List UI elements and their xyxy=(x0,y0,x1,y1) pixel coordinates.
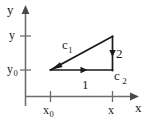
vertical-label-subscript: 2 xyxy=(120,76,127,86)
vertical-label-c2: c2 xyxy=(114,69,127,86)
hypotenuse-label-base: c xyxy=(62,37,68,52)
y-tick-label-y: y xyxy=(9,29,15,41)
x-tick-label-x-base: x xyxy=(108,103,114,117)
vertical-index-label-2: 2 xyxy=(116,47,123,60)
vertical-label-base: c xyxy=(114,68,120,83)
horizontal-index-label-1: 1 xyxy=(82,78,89,91)
x-axis-group xyxy=(26,91,140,102)
x-axis-label: x xyxy=(135,101,142,114)
x-tick-label-x0-subscript: 0 xyxy=(49,109,54,119)
hypotenuse-label-subscript: 1 xyxy=(68,45,73,55)
y-tick-label-y0-subscript: 0 xyxy=(13,68,18,78)
hypotenuse-label-c1: c1 xyxy=(62,38,73,54)
y-axis-label: y xyxy=(7,3,14,16)
y-axis-group xyxy=(20,5,31,106)
figure-canvas xyxy=(0,0,147,122)
x-tick-label-x0: x0 xyxy=(43,104,54,119)
hypotenuse-arrowhead xyxy=(51,62,63,70)
x-tick-label-x: x xyxy=(108,104,114,116)
y-tick-label-y-base: y xyxy=(9,28,15,42)
vertical-vector-c2 xyxy=(109,37,115,71)
y-axis-arrowhead xyxy=(22,5,30,14)
y-tick-label-y0: y0 xyxy=(7,63,18,78)
hypotenuse-vector-c1 xyxy=(51,37,113,71)
horizontal-midpoint-arrowhead xyxy=(81,67,88,73)
vector-triangle-figure: y x y y0 x0 x c1 2 c2 1 xyxy=(0,0,147,122)
vertical-midpoint-arrowhead xyxy=(109,50,115,57)
horizontal-vector-1 xyxy=(51,67,113,73)
